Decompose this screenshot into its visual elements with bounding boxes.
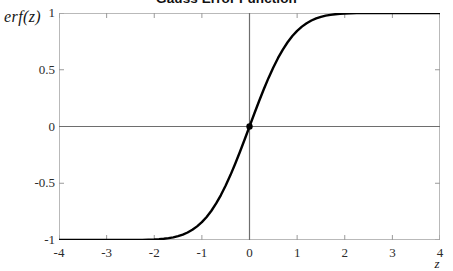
origin-marker [246, 123, 252, 129]
x-tick-label: -3 [101, 245, 112, 261]
chart-figure: Gauss Error Function erf(z) z -1-0.500.5… [0, 0, 453, 271]
chart-title: Gauss Error Function [0, 0, 453, 6]
y-tick-label: 0.5 [39, 62, 55, 78]
x-tick-label: -4 [54, 245, 65, 261]
plot-area [59, 13, 440, 240]
plot-svg [59, 13, 440, 240]
data-markers-group [246, 123, 252, 129]
y-axis-tick-labels: -1-0.500.51 [0, 0, 55, 271]
x-tick-label: 2 [342, 245, 349, 261]
x-tick-label: 1 [294, 245, 301, 261]
x-tick-label: 3 [389, 245, 396, 261]
x-tick-label: -2 [149, 245, 160, 261]
y-tick-label: -0.5 [34, 175, 55, 191]
x-tick-label: 4 [437, 245, 444, 261]
y-tick-label: 1 [49, 5, 56, 21]
x-tick-label: 0 [246, 245, 253, 261]
y-tick-label: 0 [49, 119, 56, 135]
x-tick-label: -1 [196, 245, 207, 261]
